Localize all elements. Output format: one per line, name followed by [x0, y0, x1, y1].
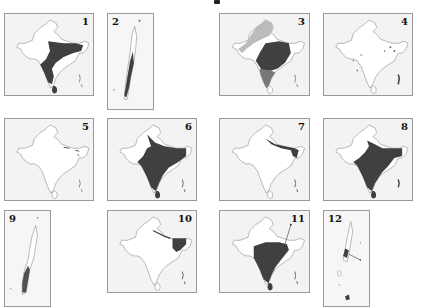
panel-number: 8 — [401, 121, 408, 132]
map-panel-6: 6 — [107, 118, 197, 201]
panel-number: 5 — [82, 121, 89, 132]
india-map — [108, 119, 196, 200]
cropped-title-fragment — [214, 0, 220, 4]
islands-map — [108, 14, 153, 109]
panel-number: 3 — [298, 16, 305, 27]
panel-number: 7 — [298, 121, 305, 132]
panel-number: 10 — [178, 213, 192, 224]
islands-map — [5, 211, 50, 306]
map-panel-7: 7 — [219, 118, 310, 201]
map-panel-10: 10 — [107, 210, 197, 293]
map-panel-3: 3 — [219, 13, 310, 96]
map-panel-9: 9 — [4, 210, 51, 307]
map-panel-5: 5 — [4, 118, 94, 201]
india-map — [324, 14, 412, 95]
panel-number: 2 — [112, 16, 119, 27]
india-map — [5, 14, 93, 95]
map-panel-1: 1 — [4, 13, 94, 96]
map-panel-12: 12 — [323, 210, 370, 307]
india-map — [324, 119, 412, 200]
india-map — [220, 14, 309, 95]
panel-number: 1 — [82, 16, 89, 27]
india-map — [5, 119, 93, 200]
map-panel-4: 4 — [323, 13, 413, 96]
panel-number: 9 — [9, 213, 16, 224]
panel-number: 11 — [291, 213, 305, 224]
islands-map — [324, 211, 369, 306]
panel-number: 4 — [401, 16, 408, 27]
panel-number: 6 — [185, 121, 192, 132]
india-map — [220, 119, 309, 200]
map-panel-8: 8 — [323, 118, 413, 201]
map-panel-2: 2 — [107, 13, 154, 110]
map-panel-11: 11 — [219, 210, 310, 293]
panel-number: 12 — [328, 213, 342, 224]
